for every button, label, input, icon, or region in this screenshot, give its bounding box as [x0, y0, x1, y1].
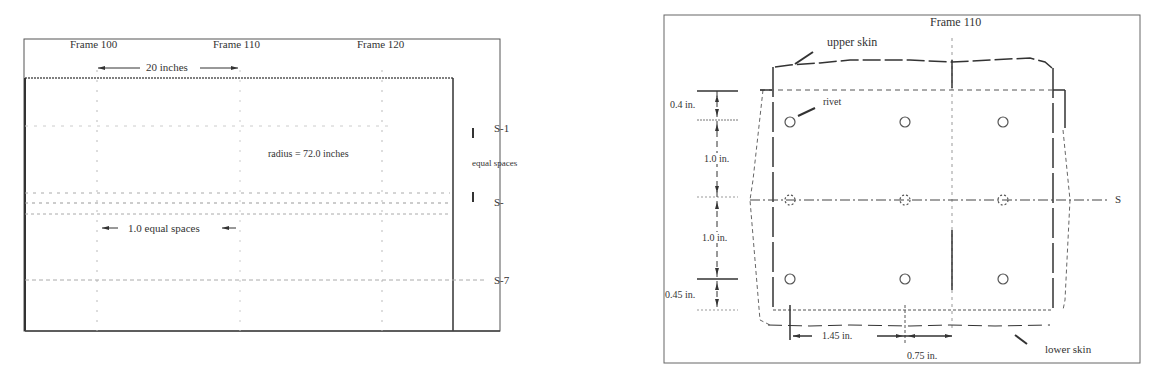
right-diagram-lines	[650, 0, 1159, 379]
dim-label-0.75: 0.75 in.	[907, 350, 937, 361]
stringer-label-s: S-	[494, 196, 504, 208]
stringer-label: S	[1115, 193, 1121, 205]
upper-skin-label: upper skin	[827, 35, 877, 50]
frame-label-120: Frame 120	[357, 38, 404, 50]
left-panel-frames-stringers: Frame 100 Frame 110 Frame 120 20 inches …	[0, 0, 520, 379]
frame-label-100: Frame 100	[70, 38, 117, 50]
stringer-label-s7: S-7	[494, 274, 509, 286]
radius-label: radius = 72.0 inches	[268, 148, 349, 159]
stringer-spacing-label: equal spaces	[472, 158, 517, 168]
rivet-label: rivet	[823, 96, 841, 107]
stringer-label-s1: S-1	[494, 122, 509, 134]
dim-label-1.0-lower: 1.0 in.	[702, 232, 727, 243]
frame-label-110: Frame 110	[213, 38, 260, 50]
rivet-spacing-label: 1.0 equal spaces	[128, 222, 200, 234]
left-diagram-lines	[0, 0, 520, 379]
frame-spacing-label: 20 inches	[146, 61, 188, 73]
dim-label-1.45: 1.45 in.	[822, 330, 852, 341]
dim-label-0.45: 0.45 in.	[665, 289, 695, 300]
dim-label-1.0-upper: 1.0 in.	[704, 153, 729, 164]
dim-label-0.4: 0.4 in.	[670, 99, 695, 110]
right-panel-skin-splice: Frame 110 upper skin rivet lower skin S …	[650, 0, 1159, 379]
frame-label-110: Frame 110	[930, 15, 981, 30]
lower-skin-label: lower skin	[1045, 343, 1091, 355]
